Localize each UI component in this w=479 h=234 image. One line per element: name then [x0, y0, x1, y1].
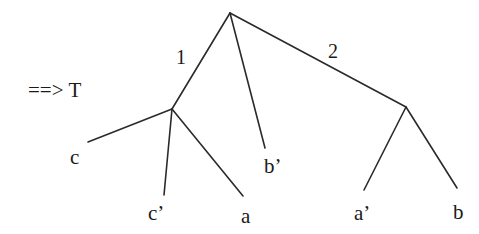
edge-label-2: 2 — [328, 40, 338, 62]
leaf-label-a-prime: a’ — [354, 201, 370, 225]
leaf-label-c-prime: c’ — [148, 201, 164, 225]
leaf-label-b-prime: b’ — [264, 154, 282, 178]
edge-root-to-right-node — [230, 13, 406, 107]
edge-left-node-to-a — [172, 109, 243, 196]
prefix-label: ==> T — [28, 78, 81, 102]
edge-left-node-to-c-prime — [164, 109, 172, 195]
leaf-label-a: a — [241, 204, 251, 228]
tree-diagram: ==> T 1 2 c c’ a b’ a’ b — [0, 0, 479, 234]
leaf-label-b: b — [453, 200, 464, 224]
edge-label-1: 1 — [176, 46, 186, 68]
leaf-label-c: c — [70, 145, 79, 169]
edge-root-to-b-prime — [230, 13, 265, 148]
edge-left-node-to-c — [88, 109, 172, 142]
edge-right-node-to-a-prime — [364, 107, 406, 190]
edge-right-node-to-b — [406, 107, 457, 188]
